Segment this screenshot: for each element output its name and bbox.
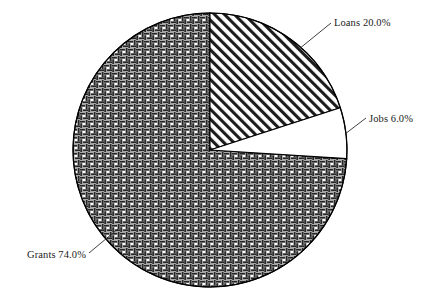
pie-chart-canvas: Loans 20.0% Jobs 6.0% Grants 74.0% xyxy=(0,0,431,301)
pie-slices xyxy=(73,13,347,287)
pie-chart-figure: Loans 20.0% Jobs 6.0% Grants 74.0% xyxy=(0,0,431,301)
label-grants: Grants 74.0% xyxy=(27,249,86,260)
label-loans: Loans 20.0% xyxy=(334,17,391,28)
label-jobs: Jobs 6.0% xyxy=(369,113,413,124)
